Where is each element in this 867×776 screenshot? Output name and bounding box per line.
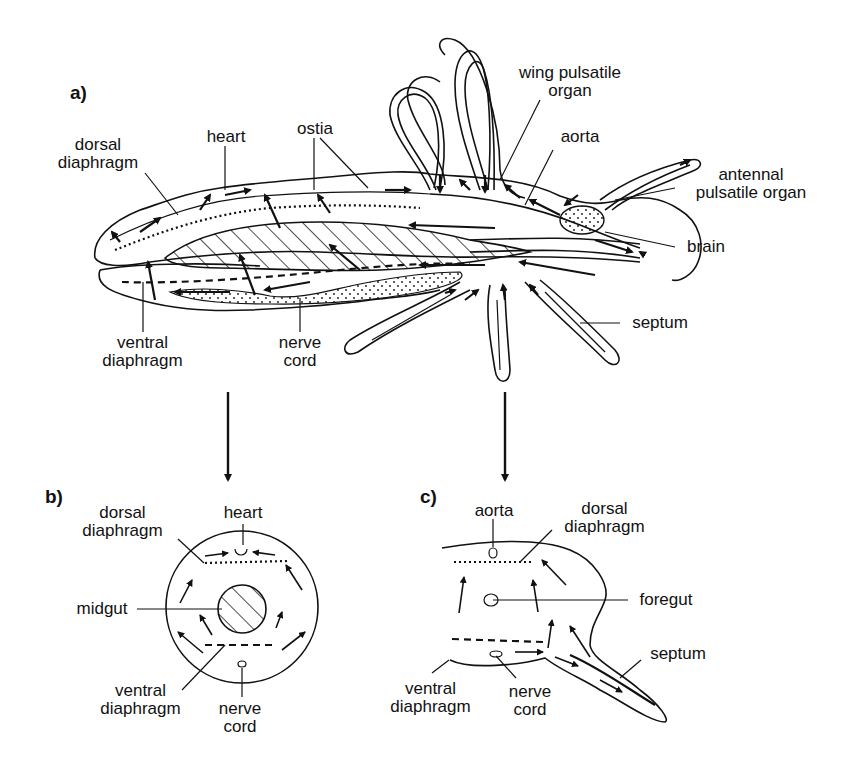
panel-b-drawing	[137, 524, 318, 697]
label-b-heart: heart	[215, 504, 271, 522]
label-b-nerve-cord: nerve cord	[210, 700, 270, 736]
label-a-ventral-diaphragm: ventral diaphragm	[90, 334, 195, 370]
label-a-septum: septum	[622, 314, 698, 332]
label-a-dorsal-diaphragm: dorsal diaphragm	[48, 136, 148, 172]
label-b-midgut: midgut	[68, 600, 136, 618]
panel-a-label: a)	[70, 82, 87, 104]
label-c-septum: septum	[642, 645, 714, 663]
label-a-nerve-cord: nerve cord	[270, 334, 330, 370]
label-c-foregut: foregut	[630, 591, 702, 609]
label-c-aorta: aorta	[466, 502, 522, 520]
label-b-ventral-diaphragm: ventral diaphragm	[88, 682, 193, 718]
label-a-ostia: ostia	[290, 120, 340, 138]
label-b-dorsal-diaphragm: dorsal diaphragm	[70, 504, 175, 540]
label-a-wing-pulsatile-organ: wing pulsatile organ	[500, 64, 640, 100]
label-c-dorsal-diaphragm: dorsal diaphragm	[552, 500, 657, 536]
insect-circulation-diagram	[0, 0, 867, 776]
label-a-heart: heart	[196, 128, 256, 146]
panel-c-label: c)	[420, 486, 437, 508]
label-a-brain: brain	[678, 238, 734, 256]
panel-b-label: b)	[45, 486, 63, 508]
label-a-aorta: aorta	[550, 128, 610, 146]
label-a-antennal-pulsatile-organ: antennal pulsatile organ	[676, 166, 826, 202]
label-c-nerve-cord: nerve cord	[500, 683, 560, 719]
label-c-ventral-diaphragm: ventral diaphragm	[378, 680, 483, 716]
